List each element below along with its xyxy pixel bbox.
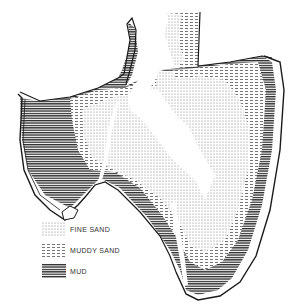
sediment-map-figure: FINE SAND MUDDY SAND MUD — [0, 0, 305, 305]
legend: FINE SAND MUDDY SAND MUD — [42, 222, 120, 285]
legend-item-mud: MUD — [42, 264, 120, 278]
fine-sand-swatch-icon — [42, 222, 66, 236]
legend-item-muddy-sand: MUDDY SAND — [42, 243, 120, 257]
legend-label: MUDDY SAND — [70, 247, 120, 254]
legend-label: FINE SAND — [70, 226, 110, 233]
spit-southwest — [62, 206, 78, 220]
legend-label: MUD — [70, 268, 87, 275]
mud-swatch-icon — [42, 264, 66, 278]
muddy-sand-swatch-icon — [42, 243, 66, 257]
legend-item-fine-sand: FINE SAND — [42, 222, 120, 236]
